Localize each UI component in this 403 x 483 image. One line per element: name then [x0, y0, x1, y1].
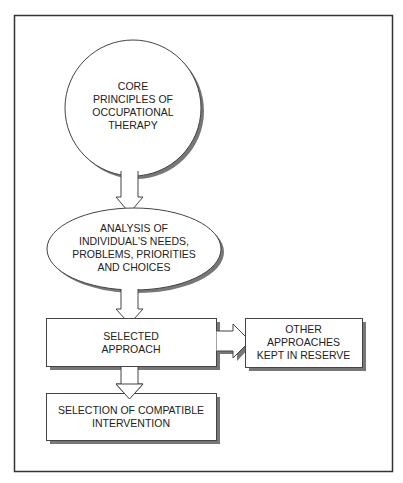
other-approaches-label: OTHER APPROACHES KEPT IN RESERVE: [245, 323, 362, 362]
analysis-label: ANALYSIS OF INDIVIDUAL'S NEEDS, PROBLEMS…: [54, 222, 214, 274]
selected-approach-label: SELECTED APPROACH: [46, 330, 216, 356]
core-label: CORE PRINCIPLES OF OCCUPATIONAL THERAPY: [68, 80, 198, 132]
intervention-label: SELECTION OF COMPATIBLE INTERVENTION: [46, 404, 216, 430]
